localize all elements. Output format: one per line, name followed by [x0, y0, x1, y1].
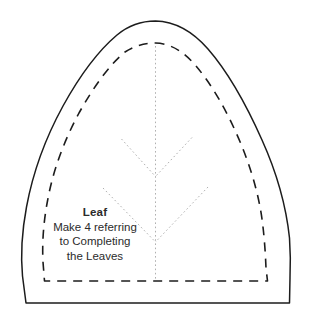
pattern-sheet: Leaf Make 4 referring to Completing the … [0, 0, 313, 329]
vein-lower-right-line [156, 187, 209, 242]
vein-upper-right-line [156, 138, 193, 177]
pattern-piece-title: Leaf [28, 205, 162, 220]
pattern-instruction-line-3: the Leaves [28, 249, 162, 264]
pattern-label-block: Leaf Make 4 referring to Completing the … [28, 205, 162, 263]
pattern-instruction-line-1: Make 4 referring [28, 220, 162, 235]
vein-upper-left-line [122, 139, 156, 177]
pattern-instruction-line-2: to Completing [28, 234, 162, 249]
leaf-pattern-drawing [0, 0, 313, 329]
